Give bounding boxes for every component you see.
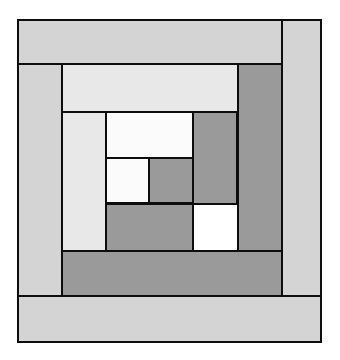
quilt-patch-outer-strip-bottom xyxy=(17,295,322,343)
quilt-patch-ring3-strip-bottom xyxy=(105,203,194,252)
quilt-patch-ring3-strip-top xyxy=(105,111,194,159)
quilt-block-canvas xyxy=(0,0,340,360)
quilt-patch-ring3-strip-left xyxy=(61,111,107,252)
quilt-patch-outer-strip-top xyxy=(17,19,283,65)
quilt-patch-ring2-strip-top xyxy=(61,63,239,113)
quilt-patch-outer-strip-left xyxy=(17,63,63,297)
quilt-patch-center-square-dark xyxy=(148,157,194,204)
quilt-patch-center-square-light xyxy=(105,157,150,204)
log-cabin-block xyxy=(0,0,340,360)
quilt-patch-ring2-strip-right xyxy=(237,63,283,252)
quilt-patch-ring2-strip-bottom xyxy=(61,250,283,297)
quilt-patch-ring3-strip-right xyxy=(192,111,238,205)
